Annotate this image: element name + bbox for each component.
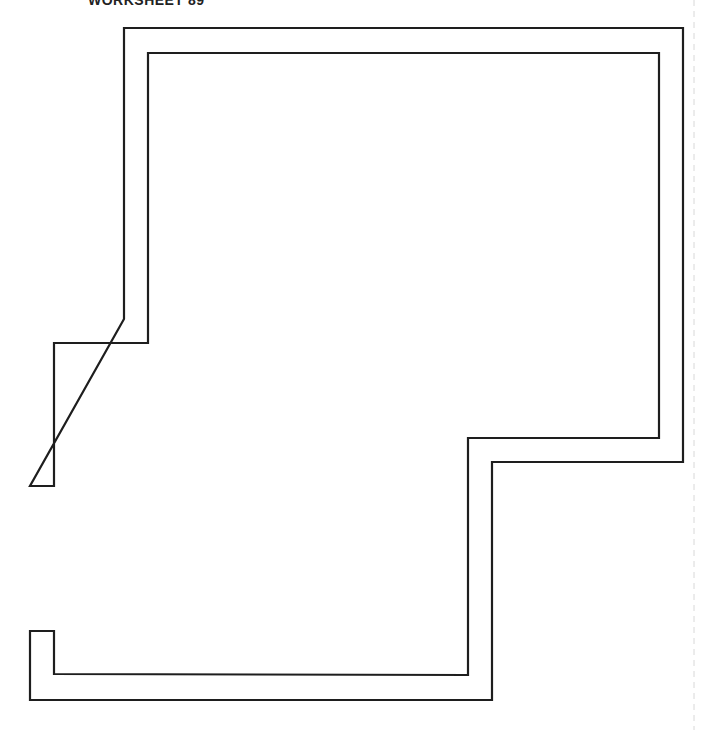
room-wall-outline [30, 28, 683, 700]
floor-plan-diagram [0, 0, 707, 730]
